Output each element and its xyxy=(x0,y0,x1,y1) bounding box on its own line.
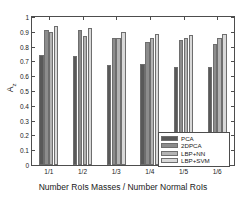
y-tick-label: 0.7 xyxy=(20,58,29,65)
x-tick-label: 1/5 xyxy=(179,168,188,175)
bar-lbp-svm-1-2 xyxy=(88,28,92,165)
x-tick-mark xyxy=(150,17,151,20)
x-tick-mark xyxy=(83,17,84,20)
x-axis-label: Number RoIs Masses / Number Normal RoIs xyxy=(0,182,246,192)
y-tick-mark xyxy=(231,165,234,166)
y-tick-mark xyxy=(32,150,35,151)
legend-label: PCA xyxy=(181,135,194,142)
bar-lbp-nn-1-2 xyxy=(83,36,87,165)
bar-lbp-nn-1-3 xyxy=(116,38,120,165)
y-tick-label: 0.6 xyxy=(20,73,29,80)
y-axis-label-base: A xyxy=(5,87,15,93)
legend: PCA2DPCALBP+NNLBP+SVM xyxy=(158,132,230,167)
y-tick-label: 0 xyxy=(25,162,29,169)
legend-swatch-icon xyxy=(161,151,178,156)
y-tick-mark xyxy=(231,17,234,18)
bar-2dpca-1-1 xyxy=(44,30,48,165)
x-tick-mark xyxy=(217,17,218,20)
bar-2dpca-1-2 xyxy=(78,30,82,165)
y-tick-mark xyxy=(32,76,35,77)
legend-item-lbp-svm[interactable]: LBP+SVM xyxy=(161,157,227,165)
bar-pca-1-2 xyxy=(73,56,77,165)
y-tick-mark xyxy=(32,165,35,166)
x-tick-label: 1/1 xyxy=(44,168,53,175)
y-tick-mark xyxy=(231,150,234,151)
legend-label: LBP+SVM xyxy=(181,157,210,164)
y-tick-label: 1 xyxy=(25,14,29,21)
y-tick-mark xyxy=(231,91,234,92)
x-tick-mark xyxy=(49,17,50,20)
legend-label: LBP+NN xyxy=(181,150,205,157)
bar-pca-1-1 xyxy=(39,55,43,165)
y-axis-label: Az xyxy=(5,68,17,108)
y-tick-label: 0.2 xyxy=(20,132,29,139)
legend-swatch-icon xyxy=(161,158,178,163)
y-tick-label: 0.8 xyxy=(20,43,29,50)
y-tick-mark xyxy=(32,106,35,107)
y-tick-mark xyxy=(32,91,35,92)
legend-item-2dpca[interactable]: 2DPCA xyxy=(161,142,227,150)
bar-lbp-svm-1-1 xyxy=(54,26,58,165)
y-tick-mark xyxy=(231,135,234,136)
legend-label: 2DPCA xyxy=(181,142,202,149)
y-tick-mark xyxy=(32,32,35,33)
legend-item-lbp-nn[interactable]: LBP+NN xyxy=(161,150,227,158)
y-tick-mark xyxy=(32,61,35,62)
x-tick-label: 1/3 xyxy=(112,168,121,175)
x-tick-mark xyxy=(184,17,185,20)
y-tick-label: 0.4 xyxy=(20,102,29,109)
figure-bar-chart-az: Az 00.10.20.30.40.50.60.70.80.91 1/11/21… xyxy=(0,0,246,203)
y-axis-label-subscript: z xyxy=(11,84,17,87)
x-tick-label: 1/4 xyxy=(145,168,154,175)
bar-lbp-nn-1-1 xyxy=(49,32,53,165)
y-tick-mark xyxy=(32,135,35,136)
y-tick-mark xyxy=(231,121,234,122)
y-tick-mark xyxy=(231,61,234,62)
legend-item-pca[interactable]: PCA xyxy=(161,135,227,143)
y-tick-mark xyxy=(32,47,35,48)
y-tick-label: 0.1 xyxy=(20,147,29,154)
y-tick-label: 0.3 xyxy=(20,117,29,124)
bar-pca-1-4 xyxy=(140,64,144,165)
x-tick-mark xyxy=(116,17,117,20)
x-tick-label: 1/6 xyxy=(213,168,222,175)
y-tick-label: 0.9 xyxy=(20,28,29,35)
bar-lbp-nn-1-4 xyxy=(150,38,154,165)
y-tick-label: 0.5 xyxy=(20,88,29,95)
y-tick-mark xyxy=(231,76,234,77)
y-tick-mark xyxy=(231,106,234,107)
y-tick-mark xyxy=(32,17,35,18)
y-tick-mark xyxy=(231,47,234,48)
bar-pca-1-3 xyxy=(107,65,111,165)
y-tick-mark xyxy=(32,121,35,122)
bar-2dpca-1-3 xyxy=(112,38,116,165)
y-tick-mark xyxy=(231,32,234,33)
bar-2dpca-1-4 xyxy=(145,42,149,165)
legend-swatch-icon xyxy=(161,136,178,141)
legend-swatch-icon xyxy=(161,143,178,148)
bar-lbp-svm-1-3 xyxy=(121,32,125,165)
x-tick-label: 1/2 xyxy=(78,168,87,175)
